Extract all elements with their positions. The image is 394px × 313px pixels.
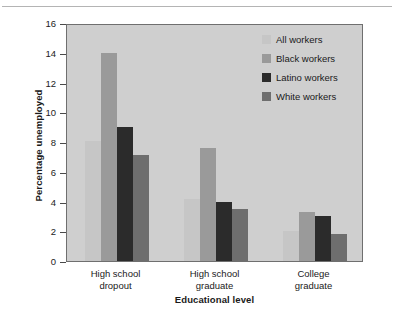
y-axis-tick-label: 14 xyxy=(34,49,56,58)
bar xyxy=(200,148,216,261)
y-axis-tick-label: 16 xyxy=(34,19,56,28)
bar-chart-figure: Percentage unemployed 1614121086420 High… xyxy=(0,0,394,313)
x-axis-category-label: High schoolgraduate xyxy=(160,268,270,291)
x-axis-title: Educational level xyxy=(66,294,363,305)
x-axis-category-label-line: graduate xyxy=(160,280,270,292)
y-axis-tick-label: 6 xyxy=(34,168,56,177)
legend-item[interactable]: White workers xyxy=(262,87,338,106)
bar xyxy=(184,199,200,261)
bar xyxy=(315,216,331,261)
y-axis-tick-label: 10 xyxy=(34,108,56,117)
y-axis-tick-mark xyxy=(60,262,66,263)
legend-item-label: Black workers xyxy=(276,53,335,64)
bar xyxy=(117,127,133,261)
legend-swatch-icon xyxy=(262,35,271,44)
x-axis-category-label-line: High school xyxy=(61,268,171,280)
legend-swatch-icon xyxy=(262,73,271,82)
x-axis-category-label-line: High school xyxy=(160,268,270,280)
legend-item-label: All workers xyxy=(276,34,322,45)
bar xyxy=(133,155,149,261)
bar xyxy=(331,234,347,261)
bar xyxy=(299,212,315,261)
legend-swatch-icon xyxy=(262,92,271,101)
legend-swatch-icon xyxy=(262,54,271,63)
legend-item[interactable]: Black workers xyxy=(262,49,338,68)
bar xyxy=(232,209,248,261)
x-axis-category-label: Collegegraduate xyxy=(259,268,369,291)
x-axis-category-label-line: College xyxy=(259,268,369,280)
x-axis-category-label-line: dropout xyxy=(61,280,171,292)
bar xyxy=(283,231,299,261)
chart-legend: All workersBlack workersLatino workersWh… xyxy=(262,30,338,106)
page-top-rule xyxy=(2,6,392,7)
bar xyxy=(101,53,117,261)
x-axis-category-label-line: graduate xyxy=(259,280,369,292)
y-axis-tick-label: 2 xyxy=(34,227,56,236)
y-axis-tick-label: 0 xyxy=(34,257,56,266)
y-axis-tick-label: 8 xyxy=(34,138,56,147)
x-axis-category-label: High schooldropout xyxy=(61,268,171,291)
y-axis-tick-label: 12 xyxy=(34,79,56,88)
y-axis-tick-label: 4 xyxy=(34,198,56,207)
bar xyxy=(216,202,232,262)
bar xyxy=(85,141,101,261)
legend-item[interactable]: Latino workers xyxy=(262,68,338,87)
legend-item-label: Latino workers xyxy=(276,72,338,83)
legend-item[interactable]: All workers xyxy=(262,30,338,49)
legend-item-label: White workers xyxy=(276,91,336,102)
